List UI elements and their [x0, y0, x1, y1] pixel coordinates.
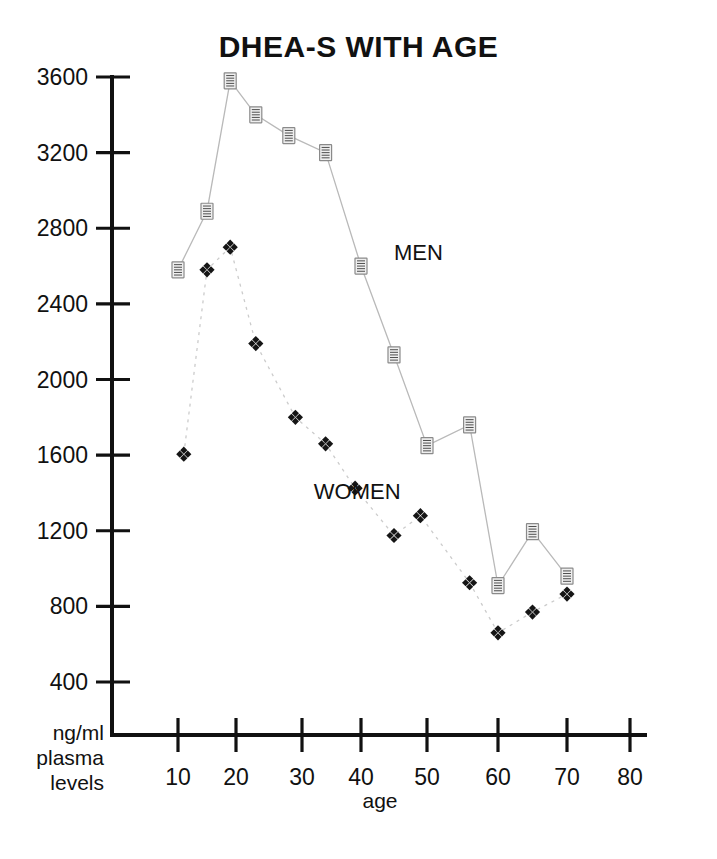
- data-point-men: [561, 568, 573, 584]
- chart-series-markers: [172, 73, 575, 641]
- data-point-men: [527, 524, 539, 540]
- y-axis-tick-label: 800: [50, 593, 88, 619]
- x-axis-tick-label: 40: [348, 764, 374, 790]
- series-annotation-women: WOMEN: [314, 479, 401, 504]
- data-point-men: [172, 262, 184, 278]
- data-point-men: [201, 203, 213, 219]
- data-point-men: [320, 145, 332, 161]
- x-axis-tick-label: 80: [617, 764, 643, 790]
- x-axis-label: age: [362, 789, 397, 812]
- data-point-men: [464, 417, 476, 433]
- x-axis-tick-label: 50: [414, 764, 440, 790]
- data-point-women: [386, 528, 401, 543]
- data-point-women: [559, 586, 574, 601]
- x-axis-tick-label: 10: [165, 764, 191, 790]
- data-point-women: [413, 508, 428, 523]
- y-axis-tick-label: 400: [50, 669, 88, 695]
- chart-series-lines: [178, 81, 567, 633]
- x-axis-tick-labels: 1020304050607080: [165, 764, 643, 790]
- data-point-men: [492, 578, 504, 594]
- y-axis-label-line-1: ng/ml: [53, 721, 104, 744]
- y-axis-tick-label: 2400: [37, 291, 88, 317]
- y-axis-label-line-2: plasma: [36, 746, 104, 769]
- y-axis-tick-label: 2000: [37, 367, 88, 393]
- data-point-men: [283, 128, 295, 144]
- y-axis-label-line-3: levels: [50, 771, 104, 794]
- data-point-men: [388, 347, 400, 363]
- y-axis-tick-label: 1600: [37, 442, 88, 468]
- y-axis-tick-label: 3600: [37, 64, 88, 90]
- chart-plot-svg: 4008001200160020002400280032003600 10203…: [0, 0, 717, 859]
- x-axis-tick-label: 20: [223, 764, 249, 790]
- y-axis-label: ng/ml plasma levels: [36, 721, 104, 794]
- y-axis-tick-label: 1200: [37, 518, 88, 544]
- y-axis-tick-label: 3200: [37, 140, 88, 166]
- y-axis-tick-labels: 4008001200160020002400280032003600: [37, 64, 88, 695]
- data-point-men: [224, 73, 236, 89]
- chart-series-annotations: MENWOMEN: [314, 240, 443, 503]
- chart-axes: [112, 77, 645, 735]
- x-axis-tick-label: 60: [485, 764, 511, 790]
- data-point-men: [250, 107, 262, 123]
- y-axis-tick-label: 2800: [37, 215, 88, 241]
- x-axis-tick-label: 70: [554, 764, 580, 790]
- data-point-men: [421, 438, 433, 454]
- x-axis-tick-label: 30: [289, 764, 315, 790]
- series-annotation-men: MEN: [394, 240, 443, 265]
- chart-container: DHEA-S WITH AGE 400800120016002000240028…: [0, 0, 717, 859]
- data-point-women: [248, 336, 263, 351]
- data-point-men: [355, 258, 367, 274]
